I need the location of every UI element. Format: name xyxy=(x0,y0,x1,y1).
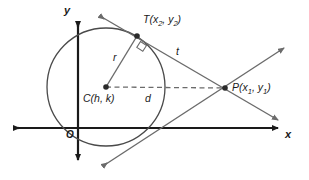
y-axis-label: y xyxy=(64,5,70,16)
radius-segment xyxy=(106,36,137,87)
center-point xyxy=(103,84,109,90)
tangent-line xyxy=(100,16,278,120)
tangency-label-y-sub: 2 xyxy=(173,19,177,28)
center-point-label: C(h, k) xyxy=(83,93,115,104)
x-axis-label: x xyxy=(285,129,291,140)
external-point xyxy=(222,85,228,91)
external-label-x-sub: 1 xyxy=(248,87,252,96)
radius-label: r xyxy=(113,52,117,63)
tangency-label-x-sub: 2 xyxy=(158,19,162,28)
external-label-y-sub: 1 xyxy=(263,87,267,96)
external-label-name: P xyxy=(232,81,239,93)
tangency-point-label: T(x2, y2) xyxy=(143,14,181,28)
origin-label: O xyxy=(66,130,74,140)
geometry-figure: y x O T(x2, y2) P(x1, y1) C(h, k) r t d xyxy=(0,0,309,180)
tangency-label-name: T xyxy=(143,13,149,25)
tangency-point xyxy=(134,33,140,39)
distance-label: d xyxy=(145,93,151,104)
tangent-label: t xyxy=(176,46,179,57)
external-point-label: P(x1, y1) xyxy=(232,82,271,96)
